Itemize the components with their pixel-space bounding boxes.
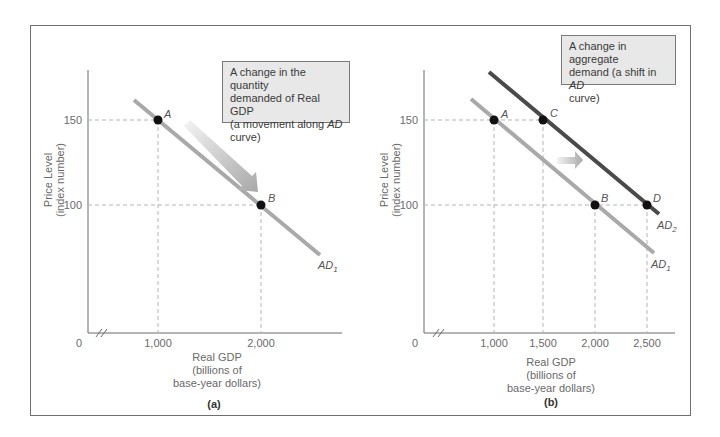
point-a-label: A <box>163 108 171 120</box>
svg-text:(index number): (index number) <box>390 143 402 217</box>
x-tick-1000: 1,000 <box>480 337 508 349</box>
point-c-label: C <box>550 107 558 119</box>
annotation-box-b: A change in aggregate demand (a shift in… <box>561 35 676 85</box>
x-tick-0: 0 <box>412 337 418 349</box>
point-a <box>490 116 499 125</box>
reference-lines <box>88 120 261 333</box>
panel-b: A C B D AD2 AD1 150 100 0 1,000 1,500 2,… <box>378 70 677 408</box>
svg-text:Real GDP: Real GDP <box>526 356 576 368</box>
ad1-label: AD1 <box>650 258 671 273</box>
y-axis-label: Price Level (index number) <box>42 143 66 217</box>
svg-text:base-year dollars): base-year dollars) <box>507 382 595 394</box>
point-d-label: D <box>653 192 661 204</box>
point-b <box>591 201 600 210</box>
point-c <box>539 116 548 125</box>
y-tick-100: 100 <box>400 199 418 211</box>
x-axis-label: Real GDP (billions of base-year dollars) <box>507 356 595 394</box>
x-tick-2500: 2,500 <box>633 337 661 349</box>
y-axis-label: Price Level (index number) <box>378 143 402 217</box>
panel-a-caption: (a) <box>207 398 221 410</box>
x-tick-0: 0 <box>76 337 82 349</box>
x-tick-1000: 1,000 <box>144 337 172 349</box>
x-axis-label: Real GDP (billions of base-year dollars) <box>173 351 261 389</box>
svg-text:base-year dollars): base-year dollars) <box>173 377 261 389</box>
svg-text:Price Level: Price Level <box>42 153 54 207</box>
point-b <box>257 201 266 210</box>
svg-text:(index number): (index number) <box>54 143 66 217</box>
ad2-label: AD2 <box>656 219 677 234</box>
point-d <box>643 201 652 210</box>
ad1-curve <box>471 99 654 253</box>
panel-b-caption: (b) <box>544 396 558 408</box>
svg-text:(billions of: (billions of <box>526 369 576 381</box>
point-b-label: B <box>601 192 608 204</box>
ad1-label: AD1 <box>317 259 338 274</box>
annotation-box-a: A change in the quantity demanded of Rea… <box>222 61 350 123</box>
x-tick-1500: 1,500 <box>529 337 557 349</box>
y-tick-150: 150 <box>400 114 418 126</box>
point-a-label: A <box>500 108 508 120</box>
point-b-label: B <box>268 192 275 204</box>
svg-text:Price Level: Price Level <box>378 153 390 207</box>
shift-arrow-icon <box>557 151 583 169</box>
y-tick-150: 150 <box>64 114 82 126</box>
svg-text:Real GDP: Real GDP <box>192 351 242 363</box>
x-tick-2000: 2,000 <box>581 337 609 349</box>
svg-text:(billions of: (billions of <box>192 364 242 376</box>
point-a <box>154 116 163 125</box>
x-tick-2000: 2,000 <box>247 337 275 349</box>
y-tick-100: 100 <box>64 199 82 211</box>
